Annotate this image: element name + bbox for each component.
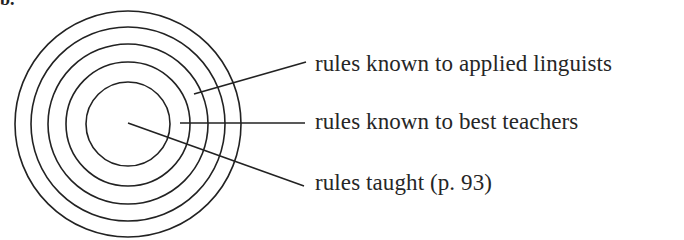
ring-2 (66, 62, 190, 186)
outer-ring (15, 11, 241, 237)
leader-line-applied-linguists (194, 62, 306, 94)
ring-4 (31, 27, 225, 221)
label-best-teachers: rules known to best teachers (315, 110, 578, 133)
label-rules-taught: rules taught (p. 93) (315, 171, 492, 194)
leader-lines-group (128, 62, 306, 186)
rings-group (15, 11, 241, 237)
ring-3 (48, 44, 208, 204)
inner-ring (86, 82, 170, 166)
leader-line-rules-taught (128, 123, 304, 186)
label-applied-linguists: rules known to applied linguists (315, 52, 612, 75)
